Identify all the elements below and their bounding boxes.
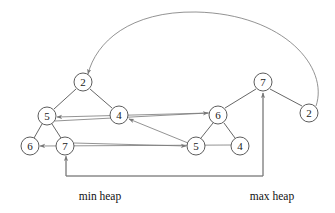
caption-min-heap: min heap [79, 190, 122, 203]
ptr-min7-max7-up-right [66, 93, 263, 176]
node-max-l[interactable]: 6 [209, 106, 227, 124]
node-label: 6 [215, 109, 221, 121]
pointer-edges-group [40, 12, 318, 176]
node-max-ll[interactable]: 5 [187, 137, 205, 155]
heap-correspondence-diagram: 2 5 4 6 7 7 6 [0, 0, 335, 213]
node-min-l[interactable]: 5 [38, 107, 56, 125]
ptr-max5-to-min4 [129, 119, 188, 143]
node-max-lr[interactable]: 4 [231, 137, 249, 155]
node-max-r[interactable]: 2 [300, 104, 318, 122]
tree-edges-group [34, 89, 302, 138]
node-label: 6 [27, 140, 33, 152]
node-label: 5 [44, 110, 50, 122]
node-min-lr[interactable]: 7 [56, 137, 74, 155]
edge-max-root-l [225, 89, 256, 108]
node-label: 2 [80, 76, 86, 88]
node-label: 4 [116, 109, 122, 121]
node-label: 5 [193, 140, 199, 152]
node-min-r[interactable]: 4 [110, 106, 128, 124]
caption-max-heap: max heap [250, 190, 295, 203]
ptr-min7-max7-up-left [66, 93, 263, 176]
node-max-root[interactable]: 7 [254, 73, 272, 91]
figure-canvas: 2 5 4 6 7 7 6 [0, 0, 335, 213]
node-label: 2 [306, 107, 312, 119]
edge-min-l-lr [52, 124, 61, 138]
node-label: 7 [260, 76, 266, 88]
node-min-root[interactable]: 2 [74, 73, 92, 91]
edge-min-l-ll [34, 124, 42, 138]
edge-min-root-l [54, 89, 76, 109]
edge-min-root-r [90, 89, 112, 108]
node-label: 7 [62, 140, 68, 152]
node-label: 4 [237, 140, 243, 152]
ptr-max2-to-min2 [88, 12, 318, 106]
ptr-max6-to-min5 [57, 113, 209, 117]
node-min-ll[interactable]: 6 [21, 137, 39, 155]
captions-group: min heap max heap [79, 190, 295, 203]
edge-max-l-ll [201, 123, 213, 138]
edge-max-root-r [270, 89, 302, 106]
edge-max-l-lr [224, 123, 235, 138]
